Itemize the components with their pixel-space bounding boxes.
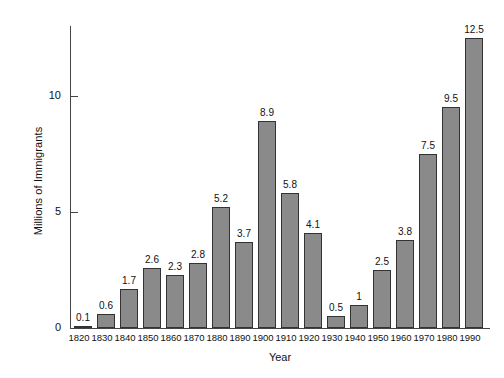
bar-value-label: 3.8 [394, 227, 416, 237]
bar-group: 1 [348, 26, 370, 328]
bar-value-label: 7.5 [417, 141, 439, 151]
bar-group: 0.1 [72, 26, 94, 328]
bar-group: 8.9 [256, 26, 278, 328]
bar [166, 275, 184, 328]
bar-value-label: 0.5 [325, 303, 347, 313]
bar-value-label: 2.3 [164, 262, 186, 272]
x-axis-title: Year [70, 351, 490, 363]
bar-value-label: 5.2 [210, 194, 232, 204]
bar-value-label: 0.1 [72, 313, 94, 323]
bar-group: 2.8 [187, 26, 209, 328]
bar-group: 3.7 [233, 26, 255, 328]
bar-group: 4.1 [302, 26, 324, 328]
bar [189, 263, 207, 328]
bar-value-label: 0.6 [95, 301, 117, 311]
bar-group: 3.8 [394, 26, 416, 328]
bar-value-label: 3.7 [233, 229, 255, 239]
bar-value-label: 1.7 [118, 276, 140, 286]
bar [74, 326, 92, 328]
bar-group: 2.5 [371, 26, 393, 328]
bar [212, 207, 230, 328]
bar-value-label: 4.1 [302, 220, 324, 230]
bar [419, 154, 437, 328]
bar-group: 1.7 [118, 26, 140, 328]
bar-value-label: 2.5 [371, 257, 393, 267]
y-axis-tick [71, 328, 78, 329]
bar-group: 2.3 [164, 26, 186, 328]
x-axis-line [70, 328, 490, 329]
bar-chart-figure: Millions of Immigrants 0510 0.10.61.72.6… [0, 0, 504, 378]
bar [442, 107, 460, 328]
bar [143, 268, 161, 328]
bar-group: 2.6 [141, 26, 163, 328]
bar-group: 12.5 [463, 26, 485, 328]
bar-value-label: 2.8 [187, 250, 209, 260]
bar-value-label: 5.8 [279, 180, 301, 190]
bar-value-label: 2.6 [141, 255, 163, 265]
bar [120, 289, 138, 328]
y-axis-title: Millions of Immigrants [32, 81, 44, 281]
bar-value-label: 9.5 [440, 94, 462, 104]
y-axis-tick-group: 0 [0, 328, 68, 329]
bar-value-label: 12.5 [463, 25, 485, 35]
bar [327, 316, 345, 328]
bar-group: 7.5 [417, 26, 439, 328]
y-axis-tick-label: 5 [21, 206, 61, 217]
bar [97, 314, 115, 328]
bar-group: 5.8 [279, 26, 301, 328]
y-axis-tick-label: 0 [21, 322, 61, 333]
plot-area: 0.10.61.72.62.32.85.23.78.95.84.10.512.5… [70, 26, 490, 328]
bar-value-label: 8.9 [256, 108, 278, 118]
y-axis-tick-label: 10 [21, 90, 61, 101]
bar [304, 233, 322, 328]
bar-group: 0.6 [95, 26, 117, 328]
bar [350, 305, 368, 328]
x-axis-tick-label: 1990 [455, 332, 485, 343]
bar [258, 121, 276, 328]
bar-value-label: 1 [348, 292, 370, 302]
bar [465, 38, 483, 328]
bar [235, 242, 253, 328]
bar-group: 0.5 [325, 26, 347, 328]
bar [396, 240, 414, 328]
y-axis-tick-group: 10 [0, 96, 68, 97]
x-axis-tick-labels: 1820183018401850186018701880189019001910… [70, 332, 490, 348]
y-axis-tick-group: 5 [0, 212, 68, 213]
bar-group: 5.2 [210, 26, 232, 328]
bar [373, 270, 391, 328]
bar [281, 193, 299, 328]
bar-group: 9.5 [440, 26, 462, 328]
